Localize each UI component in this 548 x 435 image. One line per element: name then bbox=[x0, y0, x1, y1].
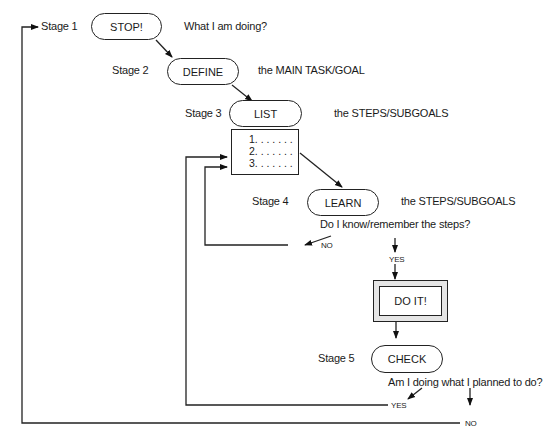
stage-1-label: Stage 1 bbox=[41, 20, 78, 32]
learn-note: the STEPS/SUBGOALS bbox=[401, 195, 515, 207]
check-yes-label: YES bbox=[391, 401, 406, 410]
learn-node: LEARN bbox=[307, 189, 379, 216]
learn-yes-label: YES bbox=[389, 255, 404, 264]
list-item-3: 3. . . . . . . bbox=[232, 157, 298, 169]
learn-no-label: NO bbox=[321, 241, 333, 250]
list-item-2: 2. . . . . . . bbox=[232, 145, 298, 157]
check-question: Am I doing what I planned to do? bbox=[388, 376, 542, 388]
do-it-label: DO IT! bbox=[379, 286, 442, 316]
check-no-label: NO bbox=[465, 419, 477, 428]
stop-note: What I am doing? bbox=[184, 20, 267, 32]
learn-question: Do I know/remember the steps? bbox=[320, 218, 470, 230]
steps-list-box: 1. . . . . . . 2. . . . . . . 3. . . . .… bbox=[231, 129, 299, 175]
stop-node: STOP! bbox=[91, 13, 162, 40]
list-node: LIST bbox=[229, 100, 302, 127]
define-node: DEFINE bbox=[167, 58, 239, 85]
stage-5-label: Stage 5 bbox=[318, 352, 355, 364]
do-it-node: DO IT! bbox=[373, 280, 448, 322]
define-note: the MAIN TASK/GOAL bbox=[258, 64, 365, 76]
list-note: the STEPS/SUBGOALS bbox=[334, 107, 448, 119]
stage-3-label: Stage 3 bbox=[185, 107, 222, 119]
stage-4-label: Stage 4 bbox=[252, 195, 289, 207]
stage-2-label: Stage 2 bbox=[112, 64, 149, 76]
list-item-1: 1. . . . . . . bbox=[232, 133, 298, 145]
check-node: CHECK bbox=[371, 345, 443, 373]
